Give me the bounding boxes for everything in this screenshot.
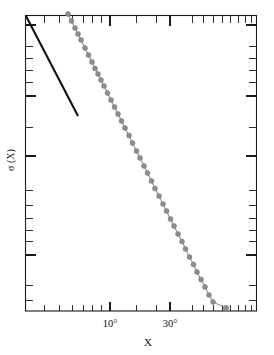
data-series-markers — [66, 12, 229, 311]
x-tick-label-10: 10° — [103, 318, 118, 329]
chart-canvas: 10° 30° X σ (X) — [0, 0, 274, 355]
chart-figure: 10° 30° X σ (X) — [0, 0, 274, 355]
y-axis-left-ticks — [26, 25, 36, 300]
x-axis-top-ticks — [44, 16, 251, 26]
x-tick-label-30: 30° — [163, 318, 178, 329]
x-axis-bottom-ticks — [44, 302, 251, 312]
data-series-line — [68, 14, 226, 308]
x-axis-title: X — [144, 336, 152, 348]
plot-frame — [26, 16, 257, 312]
y-axis-right-ticks — [246, 25, 256, 300]
y-axis-title: σ (X) — [5, 149, 17, 171]
slope-reference-line — [26, 16, 78, 116]
